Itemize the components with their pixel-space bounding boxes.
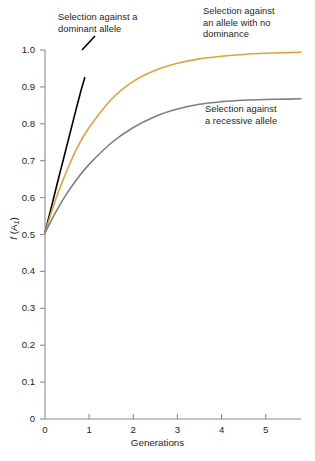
x-tick-label: 2 xyxy=(123,424,143,435)
y-tick-label: 0.9 xyxy=(11,81,35,92)
y-tick-label: 1.0 xyxy=(11,44,35,55)
data-series-group xyxy=(45,52,301,232)
y-axis-ticks xyxy=(40,50,45,419)
x-tick-label: 3 xyxy=(167,424,187,435)
annotation-no-dominance: Selection against an allele with no domi… xyxy=(203,6,275,41)
y-axis-title-paren-close: ) xyxy=(8,217,19,220)
y-tick-label: 0.1 xyxy=(11,376,35,387)
x-axis-ticks xyxy=(89,414,266,419)
x-tick-label: 5 xyxy=(256,424,276,435)
y-tick-label: 0.7 xyxy=(11,155,35,166)
y-tick-label: 0 xyxy=(11,413,35,424)
y-axis-title: f (A1) xyxy=(8,199,21,259)
series-line xyxy=(45,78,85,233)
series-line xyxy=(45,52,301,232)
x-axis-title: Generations xyxy=(0,437,315,448)
y-tick-label: 0.4 xyxy=(11,265,35,276)
leader-line-dominant xyxy=(82,36,95,50)
annotation-dominant-allele: Selection against a dominant allele xyxy=(58,12,138,35)
y-tick-label: 0.2 xyxy=(11,339,35,350)
chart-figure: 1.00.90.80.70.60.50.40.30.20.10 012345 S… xyxy=(0,0,315,461)
annotation-recessive-allele: Selection against a recessive allele xyxy=(205,104,277,127)
y-tick-label: 0.3 xyxy=(11,302,35,313)
y-tick-label: 0.8 xyxy=(11,118,35,129)
chart-plot-area xyxy=(0,0,315,461)
x-tick-label: 1 xyxy=(79,424,99,435)
y-axis-title-paren-open: (A xyxy=(8,225,19,238)
x-tick-label: 4 xyxy=(212,424,232,435)
x-tick-label: 0 xyxy=(35,424,55,435)
annotation-leader-lines xyxy=(82,36,95,50)
y-axis-title-subscript: 1 xyxy=(12,221,21,225)
